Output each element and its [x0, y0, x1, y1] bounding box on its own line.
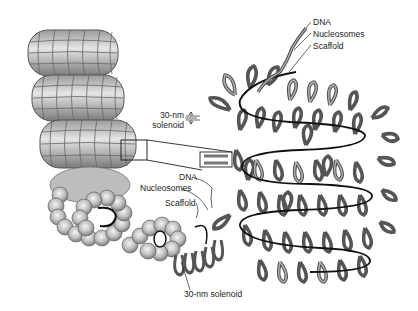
label-scaffold-top: Scaffold	[313, 42, 344, 51]
zoom-connector	[147, 140, 232, 170]
nucleosome-drum-3	[40, 120, 147, 168]
nucleosome-drum-2	[32, 75, 124, 121]
label-30nm-solenoid-bottom: 30-nm solenoid	[184, 290, 242, 299]
nucleosome-drum-1	[28, 30, 118, 76]
scaffold-core-left	[98, 208, 116, 227]
label-30nm-width-line2: solenoid	[144, 121, 184, 130]
nucleosome-stack	[28, 30, 186, 261]
label-nucleosomes-middle: Nucleosomes	[140, 184, 192, 193]
label-dna-top: DNA	[313, 18, 331, 27]
diagram-artwork	[0, 0, 418, 311]
chromatin-diagram: DNA Nucleosomes Scaffold 30-nm solenoid …	[0, 0, 418, 311]
solenoid-large	[210, 28, 398, 282]
label-scaffold-middle: Scaffold	[165, 199, 196, 208]
label-nucleosomes-top: Nucleosomes	[313, 30, 365, 39]
unwinding-coil	[48, 167, 186, 261]
label-30nm-width-line1: 30-nm	[154, 111, 184, 120]
label-dna-middle: DNA	[179, 173, 197, 182]
